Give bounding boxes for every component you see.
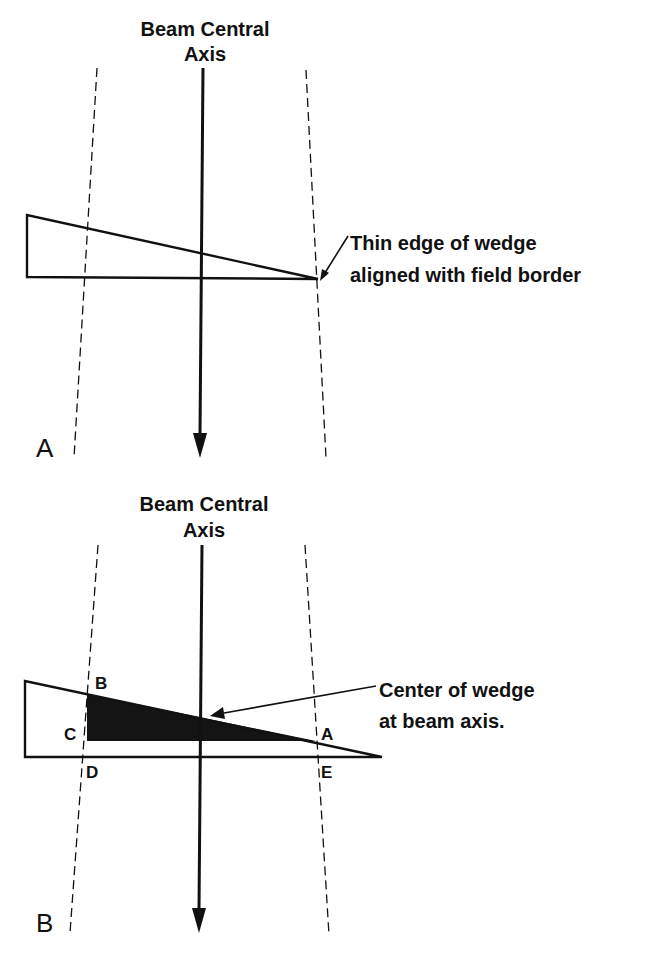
wedge-outline: [27, 215, 318, 279]
point-label-c: C: [64, 725, 76, 744]
annotation-arrow-icon: [320, 236, 348, 281]
annotation-line2: at beam axis.: [379, 710, 505, 732]
beam-axis-title-line2: Axis: [183, 519, 225, 541]
annotation-arrow-icon: [210, 686, 376, 719]
annotation-line2: aligned with field border: [350, 264, 581, 286]
point-label-b: B: [95, 674, 107, 693]
wedge-outline: [25, 681, 382, 757]
point-label-e: E: [321, 763, 332, 782]
beam-axis-arrow-icon: [193, 68, 207, 458]
wedge-alignment-figure: Beam Central Axis Thin edge of wedge ali…: [0, 0, 660, 955]
panel-b: Beam Central Axis Center of wedge at bea…: [25, 493, 535, 938]
field-border-right: [306, 70, 326, 458]
beam-axis-title-line2: Axis: [184, 43, 226, 65]
point-label-d: D: [86, 763, 98, 782]
annotation-line1: Center of wedge: [379, 679, 535, 701]
beam-axis-title-line1: Beam Central: [141, 18, 270, 40]
field-border-left: [74, 68, 97, 458]
beam-axis-title-line1: Beam Central: [140, 493, 269, 515]
panel-label-a: A: [36, 433, 54, 463]
annotation-line1: Thin edge of wedge: [350, 232, 537, 254]
panel-a: Beam Central Axis Thin edge of wedge ali…: [27, 18, 581, 463]
panel-label-b: B: [36, 908, 53, 938]
point-label-a: A: [321, 725, 333, 744]
